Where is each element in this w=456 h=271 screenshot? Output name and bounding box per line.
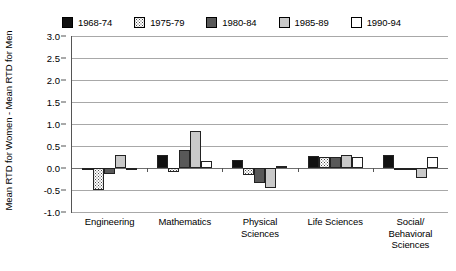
legend-swatch-icon [206,17,217,28]
x-axis-category-label-line: Life Sciences [298,216,373,228]
bar [276,166,287,168]
y-axis-tick-label: 0.0 [47,163,60,174]
bar [254,168,265,183]
legend-swatch-icon [62,17,73,28]
bar [394,168,405,170]
bar [201,161,212,168]
legend-item: 1990-94 [351,17,401,28]
y-axis-tick-label: 1.0 [47,119,60,130]
bar [330,157,341,168]
legend-item: 1975-79 [134,17,184,28]
x-axis-category-label-line: Sciences [222,228,297,240]
bar [308,156,319,168]
x-axis-category-label-line: Mathematics [147,216,222,228]
bar [265,168,276,188]
y-axis-tick-label: 0.5 [47,141,60,152]
bar [416,168,427,178]
bar [115,155,126,168]
y-axis-tick-mark [61,146,66,147]
bar [427,157,438,168]
x-axis-category-label-line: Physical [222,216,297,228]
y-axis-title-text: Mean RTD for Women - Mean RTD for Men [3,30,14,210]
bar-group [373,36,448,212]
y-axis-tick-label: 2.5 [47,53,60,64]
legend-item-label: 1980-84 [222,17,256,28]
legend-item-label: 1975-79 [150,17,184,28]
y-axis-tick-mark [61,36,66,37]
y-axis-tick-label: 2.0 [47,75,60,86]
bar-group [147,36,222,212]
legend-item-label: 1990-94 [367,17,401,28]
y-axis-tick-label: -1.0 [44,207,60,218]
plot-area [72,36,448,212]
y-axis-tick-labels: 3.02.52.01.51.00.50.0-0.5-1.0 [14,36,66,212]
y-axis-tick-mark [61,190,66,191]
y-axis-tick-label: 1.5 [47,97,60,108]
x-axis-category-label: Mathematics [147,216,222,228]
legend-item-label: 1968-74 [78,17,112,28]
chart-figure: 1968-741975-791980-841985-891990-94 Mean… [0,0,456,271]
bar [168,168,179,172]
bar [104,168,115,174]
bar [352,157,363,168]
bar [190,131,201,168]
bar [405,168,416,170]
x-axis-category-label: Life Sciences [298,216,373,228]
bar [157,155,168,168]
y-axis-tick-mark [61,168,66,169]
y-axis-tick-mark [61,58,66,59]
bar-group [222,36,297,212]
bar-group [298,36,373,212]
chart-legend: 1968-741975-791980-841985-891990-94 [62,14,446,30]
x-axis-category-label-line: Social/ [373,216,448,228]
legend-swatch-icon [351,17,362,28]
legend-item-label: 1985-89 [295,17,329,28]
x-axis-category-label: PhysicalSciences [222,216,297,239]
bar [82,168,93,170]
bar [319,157,330,168]
bar [126,168,137,170]
x-axis-category-label: Engineering [72,216,147,228]
y-axis-tick-label: -0.5 [44,185,60,196]
legend-item: 1980-84 [206,17,256,28]
x-axis-category-labels: EngineeringMathematicsPhysicalSciencesLi… [72,216,448,268]
legend-item: 1968-74 [62,17,112,28]
bar [341,155,352,168]
bar [383,155,394,168]
y-axis-tick-mark [61,124,66,125]
legend-swatch-icon [279,17,290,28]
legend-swatch-icon [134,17,145,28]
x-axis-category-label-line: Sciences [373,239,448,251]
bar [179,150,190,168]
x-axis-category-label-line: Engineering [72,216,147,228]
bar-group [72,36,147,212]
bar [232,160,243,168]
legend-item: 1985-89 [279,17,329,28]
x-axis-category-label: Social/BehavioralSciences [373,216,448,251]
y-axis-tick-mark [61,102,66,103]
y-axis-tick-label: 3.0 [47,31,60,42]
y-axis-tick-mark [61,212,66,213]
bar [93,168,104,190]
bar [243,168,254,175]
x-axis-category-label-line: Behavioral [373,228,448,240]
y-axis-tick-mark [61,80,66,81]
gridline [72,212,448,213]
